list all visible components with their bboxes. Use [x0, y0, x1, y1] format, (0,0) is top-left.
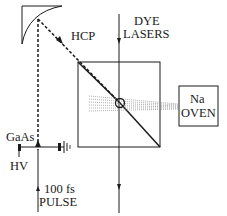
gaas-label: GaAs	[6, 131, 34, 143]
up-arrow-icon	[35, 140, 41, 147]
oven-label: OVEN	[181, 107, 216, 119]
hcp-beam-continuation	[120, 103, 160, 147]
pulse-duration-label: 100 fs	[44, 183, 75, 195]
dye-label: DYE	[134, 15, 160, 27]
atomic-beam-dots	[89, 96, 178, 111]
pulse-arrow-icon	[36, 186, 40, 191]
pulse-label: PULSE	[39, 196, 77, 208]
hv-label: HV	[10, 160, 28, 172]
hcp-arrow-icon	[56, 36, 63, 44]
lasers-label: LASERS	[123, 28, 170, 40]
dye-arrow-top-icon	[117, 38, 121, 44]
na-label: Na	[190, 93, 205, 105]
dye-arrow-bottom-icon	[117, 184, 121, 190]
hcp-label: HCP	[71, 30, 95, 42]
